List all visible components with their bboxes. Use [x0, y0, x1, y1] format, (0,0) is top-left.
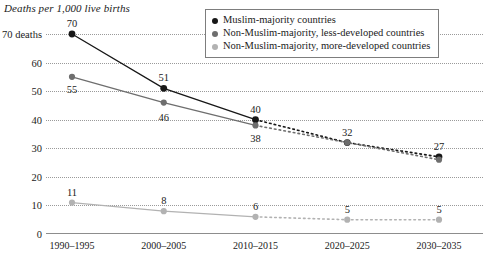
point-label-1-2: 38 [250, 133, 261, 144]
legend-item-2[interactable]: Non-Muslim-majority, more-developed coun… [212, 40, 430, 53]
y-tick-label-20: 20 [32, 171, 43, 182]
point-label-2-1: 8 [161, 195, 166, 206]
x-tick-label-0: 1990–1995 [50, 240, 95, 251]
data-point-marker [436, 157, 442, 163]
point-label-0-2: 40 [250, 103, 261, 114]
point-label-0-4: 27 [434, 140, 445, 151]
legend-marker-icon [212, 31, 218, 37]
data-point-marker [161, 99, 167, 105]
legend-item-label: Non-Muslim-majority, less-developed coun… [223, 28, 424, 39]
legend-marker-icon [212, 44, 218, 50]
point-label-0-0: 70 [67, 18, 78, 29]
x-tick-label-2: 2010–2015 [233, 240, 278, 251]
y-tick-label-60: 60 [32, 57, 43, 68]
legend-marker-icon [212, 18, 218, 24]
y-tick-label-40: 40 [32, 114, 43, 125]
point-label-2-2: 6 [253, 200, 258, 211]
data-point-marker [160, 85, 167, 92]
data-point-marker [161, 208, 167, 214]
x-axis-line [46, 233, 483, 234]
y-tick-label-50: 50 [32, 86, 43, 97]
legend-item-0[interactable]: Muslim-majority countries [212, 14, 430, 27]
y-tick-label-10: 10 [32, 200, 43, 211]
data-point-marker [344, 139, 350, 145]
series-layer [46, 34, 483, 234]
chart-legend: Muslim-majority countriesNon-Muslim-majo… [205, 9, 439, 58]
point-label-1-1: 46 [159, 111, 170, 122]
data-point-marker [252, 214, 258, 220]
y-tick-label-0: 0 [37, 229, 42, 240]
x-tick-label-1: 2000–2005 [141, 240, 186, 251]
infant-mortality-line-chart: Deaths per 1,000 live births 01020304050… [0, 0, 483, 265]
point-label-2-4: 5 [436, 203, 441, 214]
y-tick-label-30: 30 [32, 143, 43, 154]
data-point-marker [69, 199, 75, 205]
data-point-marker [252, 122, 258, 128]
point-label-0-1: 51 [159, 72, 170, 83]
y-tick-label-70: 70 deaths [2, 29, 42, 40]
x-tick-label-3: 2020–2025 [325, 240, 370, 251]
point-label-2-3: 5 [345, 203, 350, 214]
point-label-0-3: 32 [342, 126, 353, 137]
legend-item-label: Non-Muslim-majority, more-developed coun… [223, 41, 430, 52]
legend-item-1[interactable]: Non-Muslim-majority, less-developed coun… [212, 27, 430, 40]
data-point-marker [436, 217, 442, 223]
data-point-marker [69, 31, 76, 38]
point-label-2-0: 11 [67, 186, 77, 197]
data-point-marker [69, 74, 75, 80]
data-point-marker [344, 217, 350, 223]
data-point-marker [252, 116, 259, 123]
point-label-1-0: 55 [67, 83, 78, 94]
plot-area: 010203040506070 deaths 1990–19952000–200… [46, 34, 483, 234]
legend-item-label: Muslim-majority countries [223, 15, 336, 26]
chart-axis-title: Deaths per 1,000 live births [4, 2, 130, 14]
x-tick-label-4: 2030–2035 [417, 240, 462, 251]
